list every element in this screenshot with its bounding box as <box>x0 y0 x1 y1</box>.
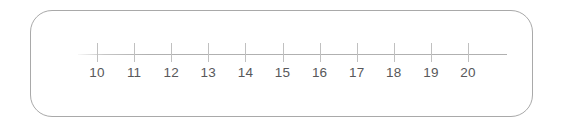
number-line-card <box>30 10 533 117</box>
